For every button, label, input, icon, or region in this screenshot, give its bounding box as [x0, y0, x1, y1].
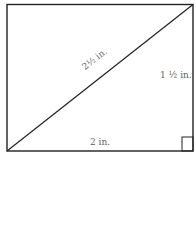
- height-label: 1 ½ in.: [160, 70, 192, 80]
- right-angle-marker: [182, 137, 193, 151]
- width-label: 2 in.: [90, 137, 110, 147]
